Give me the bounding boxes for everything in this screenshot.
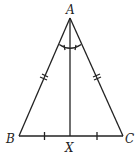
label-C: C [125,132,134,146]
side-AB [19,18,70,136]
label-A: A [65,3,75,17]
side-AC [70,18,123,136]
label-X: X [64,141,74,154]
angle-tick-right [75,45,76,50]
label-B: B [5,132,15,146]
triangle-diagram: A B C X [0,0,140,154]
angle-tick-left [64,45,65,50]
